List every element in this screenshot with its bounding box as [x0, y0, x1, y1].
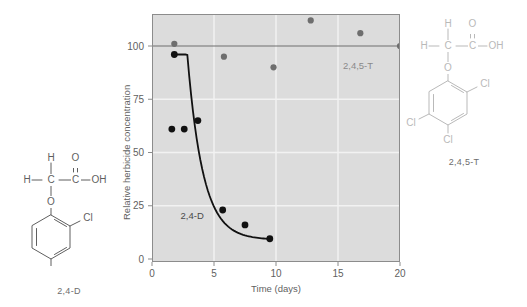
- atom-label-h-left: H: [23, 174, 30, 185]
- atom-label-o-double: O: [72, 152, 80, 163]
- atom-label-o-ether: O: [47, 196, 55, 207]
- atom-label-oh: OH: [489, 40, 504, 51]
- atom-label-h-top: H: [444, 18, 451, 29]
- x-axis-title: Time (days): [152, 283, 400, 294]
- atom-label-c-alpha: C: [47, 174, 54, 185]
- atom-label-c-alpha: C: [444, 40, 451, 51]
- atom-label-o-double: O: [469, 18, 477, 29]
- atom-label-o-ether: O: [444, 62, 452, 73]
- tick-label-y-75: 75: [133, 94, 145, 105]
- data-point-2-4-D-5: [242, 222, 249, 229]
- data-point-2-4-5-T-3: [308, 17, 314, 23]
- atom-label-h-left: H: [420, 40, 427, 51]
- atom-label-cl-2: Cl: [480, 78, 489, 89]
- tick-label-x-0: 0: [149, 268, 155, 279]
- tick-label-y-0: 0: [138, 254, 144, 265]
- tick-label-x-10: 10: [270, 268, 282, 279]
- tick-label-y-50: 50: [133, 147, 145, 158]
- data-point-2-4-D-0: [171, 51, 178, 58]
- atom-label-cl-2: Cl: [83, 212, 92, 223]
- data-point-2-4-5-T-2: [270, 64, 276, 70]
- atom-label-h-top: H: [47, 152, 54, 163]
- data-point-2-4-D-6: [266, 235, 273, 242]
- data-point-2-4-D-1: [168, 126, 175, 133]
- tick-label-x-15: 15: [332, 268, 344, 279]
- data-point-2-4-D-2: [181, 126, 188, 133]
- atom-label-c-carboxyl: C: [72, 174, 79, 185]
- series-annotation-2-4-5-T: 2,4,5-T: [343, 60, 373, 71]
- tick-label-y-25: 25: [133, 200, 145, 211]
- tick-label-x-20: 20: [394, 268, 406, 279]
- herbicide-degradation-figure: H H C C O OH O Cl Cl 2,4-D: [0, 0, 527, 307]
- series-annotation-2-4-D: 2,4-D: [181, 210, 204, 221]
- atom-label-c-carboxyl: C: [469, 40, 476, 51]
- tick-label-x-5: 5: [211, 268, 217, 279]
- atom-label-oh: OH: [92, 174, 107, 185]
- structure-2-4-5-t-diagram: H H C C O OH O Cl Cl Cl: [404, 6, 524, 151]
- structure-2-4-d-diagram: H H C C O OH O Cl Cl: [4, 136, 134, 266]
- plot-area: 2,4-D2,4,5-T 051015200255075100: [152, 14, 400, 262]
- data-point-2-4-5-T-4: [357, 30, 363, 36]
- atom-label-cl-5: Cl: [406, 117, 415, 128]
- data-point-2-4-5-T-0: [171, 41, 177, 47]
- structure-2-4-5-t: H H C C O OH O Cl Cl Cl 2,4,5-T: [404, 6, 524, 167]
- scatter-plot: 2,4-D2,4,5-T: [152, 14, 400, 262]
- structure-2-4-d: H H C C O OH O Cl Cl 2,4-D: [4, 136, 134, 296]
- atom-label-cl-4: Cl: [443, 134, 452, 145]
- data-point-2-4-D-4: [219, 207, 226, 214]
- y-axis-title: Relative herbicide concentration: [119, 46, 133, 259]
- structure-2-4-d-caption: 2,4-D: [4, 286, 134, 296]
- data-point-2-4-5-T-1: [221, 54, 227, 60]
- data-point-2-4-D-3: [194, 117, 201, 124]
- structure-2-4-5-t-caption: 2,4,5-T: [404, 157, 524, 167]
